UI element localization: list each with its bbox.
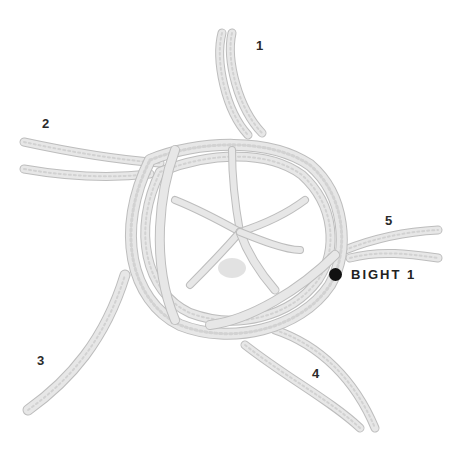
bight-label: BIGHT 1 [351,267,416,282]
bight-callout: BIGHT 1 [329,267,416,282]
knot-diagram: 1 2 3 4 5 BIGHT 1 [0,0,461,455]
strand-label-3: 3 [37,353,44,368]
strand-4 [245,330,375,428]
strand-label-5: 5 [385,213,392,228]
strand-label-4: 4 [312,366,319,381]
rope-strands [24,33,438,428]
strand-5 [345,230,438,258]
strand-label-1: 1 [256,38,263,53]
strand-label-2: 2 [42,116,49,131]
bight-marker-dot [329,268,342,281]
strand-3 [28,275,125,410]
